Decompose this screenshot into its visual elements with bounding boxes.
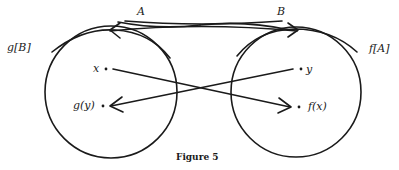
point-x	[105, 68, 108, 71]
diagram-canvas	[0, 0, 399, 170]
label-gy: g(y)	[73, 100, 95, 111]
right-set-circle	[231, 27, 361, 157]
point-fx	[298, 106, 301, 109]
label-left-set: g[B]	[7, 42, 31, 53]
mapping-line-upper	[125, 21, 282, 24]
figure-5-diagram: A B g[B] f[A] x y g(y) f(x) Figure 5	[0, 0, 399, 170]
label-y: y	[306, 64, 312, 75]
label-x: x	[93, 63, 99, 74]
label-subset-a: A	[137, 6, 145, 17]
point-gy	[102, 105, 105, 108]
label-subset-b: B	[277, 6, 285, 17]
subset-a-arc	[52, 30, 170, 58]
mapping-line-lower	[110, 27, 297, 32]
point-y	[300, 68, 303, 71]
figure-caption: Figure 5	[176, 152, 219, 162]
label-fx: f(x)	[308, 101, 327, 112]
label-right-set: f[A]	[369, 43, 390, 54]
